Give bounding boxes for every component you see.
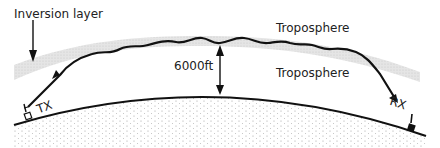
inversion-layer-label: Inversion layer	[14, 8, 103, 20]
height-arrow-down-icon	[216, 85, 224, 95]
height-arrow-up-icon	[216, 45, 224, 56]
troposphere-upper-label: Troposphere	[276, 22, 349, 34]
rx-antenna-icon	[407, 114, 416, 132]
troposphere-lower-label: Troposphere	[276, 67, 349, 79]
ducting-diagram: Inversion layer Troposphere Troposphere …	[0, 0, 440, 148]
diagram-canvas	[0, 0, 440, 148]
ground-earth	[14, 97, 426, 148]
height-label: 6000ft	[174, 60, 213, 72]
